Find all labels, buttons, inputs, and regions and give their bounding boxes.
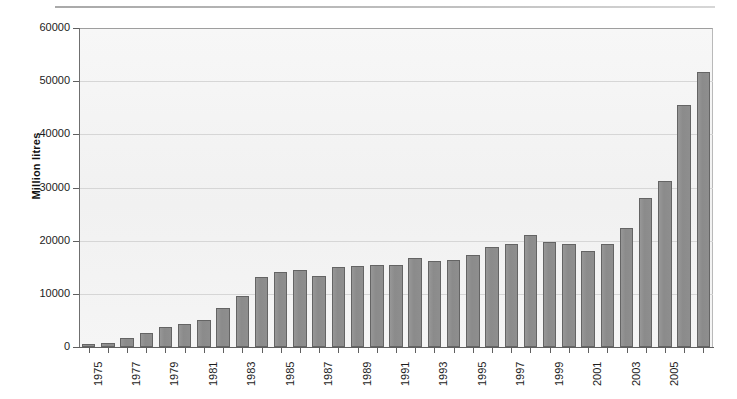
bar — [466, 255, 479, 347]
bar — [312, 276, 325, 347]
bar — [159, 327, 172, 347]
x-axis-tick-label: 1989 — [362, 362, 373, 386]
y-axis-tick-label: 50000 — [2, 75, 70, 86]
bar — [120, 338, 133, 347]
x-axis-tick-label: 2001 — [592, 362, 603, 386]
bar — [447, 260, 460, 347]
bar — [639, 198, 652, 347]
x-axis-tick-label: 1999 — [554, 362, 565, 386]
bar — [620, 228, 633, 347]
bar — [293, 270, 306, 347]
x-axis-tick-labels: 1975197719791981198319851987198919911993… — [79, 352, 713, 398]
x-axis-tick-label: 1975 — [93, 362, 104, 386]
x-axis-tick-label: 1995 — [477, 362, 488, 386]
x-axis-tick-label: 2005 — [669, 362, 680, 386]
bar — [697, 72, 710, 347]
bar — [389, 265, 402, 347]
y-axis-tick-label: 20000 — [2, 235, 70, 246]
bar — [140, 333, 153, 347]
bar — [255, 277, 268, 347]
y-axis-tick-label: 60000 — [2, 22, 70, 33]
page-top-rule — [55, 6, 715, 8]
y-axis-title: Million litres — [30, 106, 42, 226]
x-axis-tick-label: 1985 — [285, 362, 296, 386]
chart-page: 0100002000030000400005000060000 Million … — [0, 0, 737, 399]
bar — [216, 308, 229, 347]
x-axis-tick-label: 1987 — [323, 362, 334, 386]
x-axis-tick-label: 1997 — [515, 362, 526, 386]
bar — [505, 244, 518, 347]
bar — [274, 272, 287, 347]
y-axis-tick-label: 10000 — [2, 288, 70, 299]
x-axis-tick-label: 1977 — [131, 362, 142, 386]
y-axis-tick-label: 0 — [2, 341, 70, 352]
x-axis-tick-label: 1993 — [438, 362, 449, 386]
bar — [677, 105, 690, 347]
x-axis-tick-label: 2003 — [631, 362, 642, 386]
bar — [562, 244, 575, 347]
bar — [524, 235, 537, 347]
x-axis-tick-label: 1983 — [246, 362, 257, 386]
bar — [658, 181, 671, 347]
bar — [601, 244, 614, 347]
bar — [428, 261, 441, 347]
bar — [485, 247, 498, 347]
bar — [236, 296, 249, 347]
bar — [351, 266, 364, 347]
x-axis-tick-label: 1981 — [208, 362, 219, 386]
bar — [197, 320, 210, 347]
bar — [370, 265, 383, 347]
x-axis-tick-label: 1979 — [169, 362, 180, 386]
x-axis-tick-label: 1991 — [400, 362, 411, 386]
bar — [332, 267, 345, 347]
bar — [581, 251, 594, 347]
bar-series — [79, 28, 713, 347]
bar — [543, 242, 556, 347]
bar — [178, 324, 191, 347]
bar — [408, 258, 421, 347]
